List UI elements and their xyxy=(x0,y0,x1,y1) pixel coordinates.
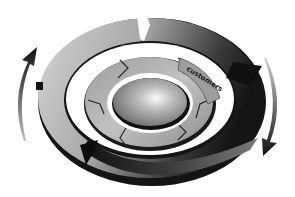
outer-notch-left xyxy=(36,82,43,90)
cycle-diagram: customers xyxy=(0,0,295,197)
center-hub xyxy=(107,73,193,133)
left-side-arrow xyxy=(18,47,37,141)
